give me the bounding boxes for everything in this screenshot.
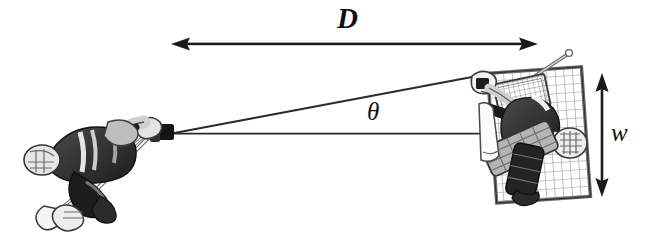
distance-label: D	[337, 4, 358, 33]
diagram-canvas	[0, 0, 646, 242]
net-width-label: w	[611, 120, 628, 145]
hockey-angle-diagram: D θ w	[0, 0, 646, 242]
shooter-helmet	[24, 145, 60, 175]
angle-label: θ	[367, 99, 379, 124]
